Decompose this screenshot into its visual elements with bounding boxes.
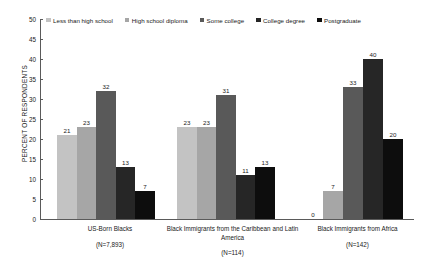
bar[interactable] <box>216 95 236 219</box>
bar-slot: 40 <box>363 19 383 219</box>
bar[interactable] <box>197 127 217 219</box>
y-tick-label: 35 <box>6 76 36 83</box>
bar-value-label: 33 <box>350 79 357 86</box>
y-tick-label: 10 <box>6 176 36 183</box>
category-count: (N=7,893) <box>45 241 175 250</box>
category-count: (N=114) <box>160 249 305 258</box>
bar-value-label: 32 <box>103 83 110 90</box>
bar-slot: 32 <box>96 19 116 219</box>
category-caption-2: Black Immigrants from Africa(N=142) <box>295 225 420 249</box>
bar-value-label: 7 <box>143 183 146 190</box>
bar-slot: 23 <box>197 19 217 219</box>
bar[interactable] <box>383 139 403 219</box>
bar[interactable] <box>57 135 77 219</box>
y-tick-label: 45 <box>6 36 36 43</box>
y-tick-label: 50 <box>6 16 36 23</box>
y-tick-label: 5 <box>6 196 36 203</box>
y-tick-label: 0 <box>6 216 36 223</box>
category-caption-0: US-Born Blacks(N=7,893) <box>45 225 175 249</box>
bar-value-label: 23 <box>83 119 90 126</box>
bar-slot: 13 <box>255 19 275 219</box>
bar-group-0: 212332137 <box>55 19 157 219</box>
bar-value-label: 40 <box>370 51 377 58</box>
category-count: (N=142) <box>295 241 420 250</box>
bar-slot: 33 <box>343 19 363 219</box>
bar[interactable] <box>236 175 256 219</box>
bar-group-2: 07334020 <box>303 19 403 219</box>
category-name: Black Immigrants from the Caribbean and … <box>167 225 299 241</box>
bar-slot: 21 <box>57 19 77 219</box>
bar-value-label: 7 <box>331 183 334 190</box>
bar-value-label: 0 <box>311 211 314 218</box>
bar-slot: 7 <box>135 19 155 219</box>
bar[interactable] <box>116 167 136 219</box>
bar-value-label: 13 <box>262 159 269 166</box>
bar-slot: 7 <box>323 19 343 219</box>
bar-slot: 0 <box>303 19 323 219</box>
bar-value-label: 11 <box>242 167 248 174</box>
bar-slot: 23 <box>177 19 197 219</box>
bar-value-label: 21 <box>64 127 71 134</box>
category-caption-1: Black Immigrants from the Caribbean and … <box>160 225 305 258</box>
category-name: US-Born Blacks <box>88 225 132 232</box>
y-tick-mark <box>40 219 43 220</box>
bar-group-1: 2323311113 <box>175 19 277 219</box>
bar-value-label: 13 <box>122 159 129 166</box>
y-tick-label: 15 <box>6 156 36 163</box>
bar-slot: 11 <box>236 19 256 219</box>
bar-value-label: 31 <box>223 87 230 94</box>
bar-slot: 13 <box>116 19 136 219</box>
plot-area: 212332137232331111307334020 <box>41 19 414 219</box>
bar[interactable] <box>135 191 155 219</box>
bar-value-label: 23 <box>184 119 191 126</box>
bar[interactable] <box>323 191 343 219</box>
bar-value-label: 23 <box>203 119 210 126</box>
bar[interactable] <box>343 87 363 219</box>
bar[interactable] <box>177 127 197 219</box>
y-tick-label: 20 <box>6 136 36 143</box>
y-tick-label: 40 <box>6 56 36 63</box>
x-axis-line <box>40 219 414 220</box>
category-name: Black Immigrants from Africa <box>317 225 397 232</box>
bar[interactable] <box>77 127 97 219</box>
bar[interactable] <box>255 167 275 219</box>
bar-slot: 31 <box>216 19 236 219</box>
y-tick-label: 30 <box>6 96 36 103</box>
bar-chart: Less than high schoolHigh school diploma… <box>0 0 422 268</box>
y-tick-label: 25 <box>6 116 36 123</box>
bar-value-label: 20 <box>390 131 397 138</box>
bar-slot: 23 <box>77 19 97 219</box>
bar[interactable] <box>363 59 383 219</box>
bar[interactable] <box>96 91 116 219</box>
bar-slot: 20 <box>383 19 403 219</box>
